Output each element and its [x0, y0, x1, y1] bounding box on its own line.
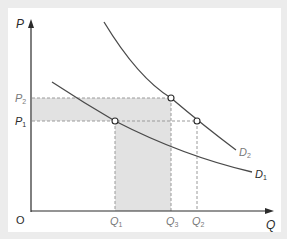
q2-label: Q2: [192, 216, 204, 228]
point-q3-p2-icon: [168, 95, 174, 101]
d1-label: D1: [255, 169, 267, 181]
q3-label: Q3: [166, 216, 178, 228]
shaded-price-band: [32, 98, 171, 121]
point-q1-p1-icon: [112, 118, 118, 124]
x-axis-label: Q: [266, 219, 275, 231]
y-axis-arrow-icon: [28, 19, 34, 28]
p1-label: P1: [15, 116, 26, 128]
q1-label: Q1: [110, 216, 122, 228]
origin-label: O: [16, 215, 25, 226]
y-axis-label: P: [16, 18, 24, 30]
x-axis-arrow-icon: [265, 208, 274, 214]
demand-diagram: [0, 0, 287, 239]
p2-label: P2: [15, 93, 26, 105]
point-q2-p1-icon: [194, 118, 200, 124]
d2-label: D2: [239, 147, 251, 159]
